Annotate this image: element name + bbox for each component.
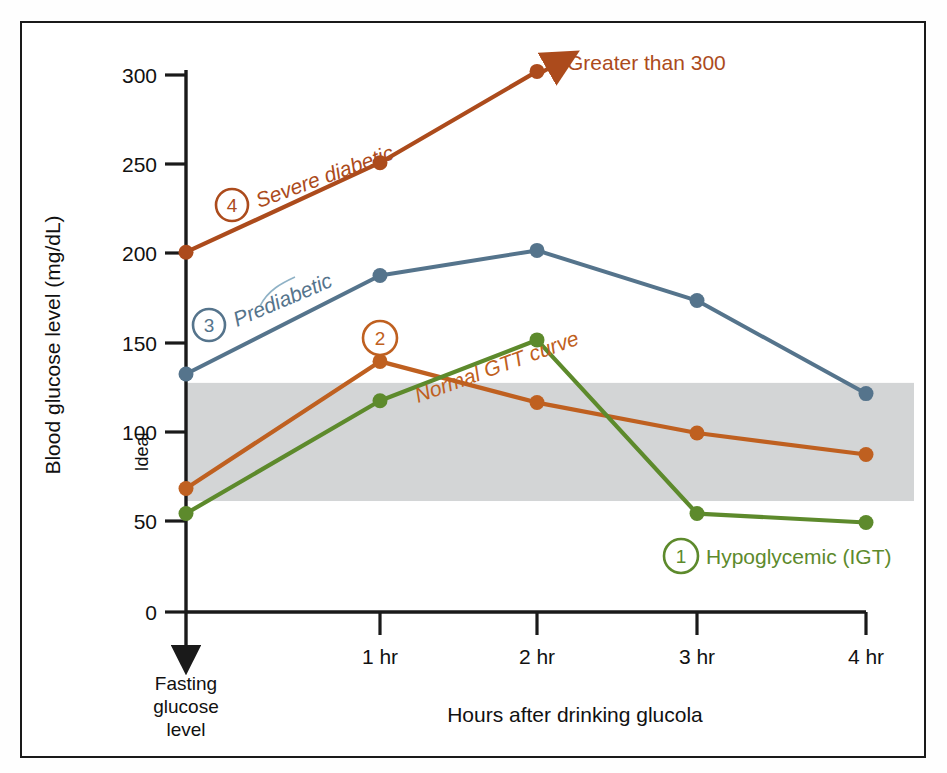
y-tick-label-50: 50 [134, 510, 157, 533]
legend-badge-2-number: 2 [375, 328, 386, 349]
legend-badge-1-number: 1 [676, 546, 687, 567]
series-prediabetic [179, 243, 874, 401]
chart-canvas: 300 250 200 150 100 50 0 1 hr 2 hr 3 hr … [0, 0, 947, 773]
y-tick-label-150: 150 [122, 332, 157, 355]
ideal-band-label: Ideal [132, 432, 152, 471]
greater-than-300-annotation: Greater than 300 [567, 51, 726, 74]
fasting-label-line1: Fasting [155, 673, 217, 694]
chart-figure: 300 250 200 150 100 50 0 1 hr 2 hr 3 hr … [0, 0, 947, 773]
ideal-band [186, 383, 914, 501]
x-tick-label-1hr: 1 hr [362, 645, 398, 668]
data-point [530, 243, 545, 258]
x-tick-label-4hr: 4 hr [848, 645, 884, 668]
legend-label-severe-diabetic: Severe diabetic [253, 140, 397, 211]
legend-badge-3-number: 3 [204, 315, 215, 336]
x-tick-marks [380, 612, 866, 635]
data-point [690, 293, 705, 308]
y-axis-title: Blood glucose level (mg/dL) [41, 215, 64, 474]
fasting-label-line2: glucose [153, 696, 219, 717]
data-point [530, 64, 545, 79]
legend-badge-1[interactable]: 1 [664, 539, 698, 573]
data-point [179, 506, 194, 521]
data-point [859, 447, 874, 462]
y-tick-label-300: 300 [122, 64, 157, 87]
x-tick-label-3hr: 3 hr [679, 645, 715, 668]
legend-label-prediabetic: Prediabetic [230, 268, 336, 330]
data-point [690, 506, 705, 521]
data-point [373, 268, 388, 283]
legend-label-hypoglycemic: Hypoglycemic (IGT) [706, 545, 892, 568]
x-tick-label-2hr: 2 hr [519, 645, 555, 668]
legend-badge-4-number: 4 [227, 195, 238, 216]
legend-badge-3[interactable]: 3 [193, 309, 225, 341]
data-point [530, 395, 545, 410]
data-point [179, 481, 194, 496]
y-tick-label-0: 0 [145, 601, 157, 624]
data-point [373, 393, 388, 408]
data-point [179, 366, 194, 381]
data-point [179, 245, 194, 260]
data-point [859, 386, 874, 401]
y-tick-marks [165, 75, 186, 612]
data-point [690, 426, 705, 441]
data-point [859, 515, 874, 530]
y-tick-label-200: 200 [122, 242, 157, 265]
fasting-label-line3: level [166, 719, 205, 740]
x-axis-title: Hours after drinking glucola [447, 703, 703, 726]
legend-badge-2[interactable]: 2 [363, 321, 397, 355]
legend-badge-4[interactable]: 4 [216, 189, 248, 221]
y-tick-label-250: 250 [122, 153, 157, 176]
